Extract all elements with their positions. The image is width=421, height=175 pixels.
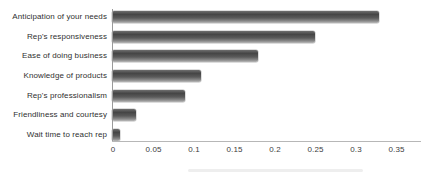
bar-row: Friendliness and courtesy [0,109,421,121]
category-label: Anticipation of your needs [0,11,112,23]
bar-row: Rep's responsiveness [0,31,421,43]
x-tick-label: 0.2 [269,145,280,154]
bar-row: Anticipation of your needs [0,11,421,23]
x-tick-label: 0 [111,145,116,154]
x-tick-label: 0.05 [146,145,162,154]
x-tick-label: 0.1 [188,145,199,154]
bar [112,90,185,102]
bar-row: Ease of doing business [0,50,421,62]
bar [112,31,315,43]
category-label: Ease of doing business [0,50,112,62]
x-tick-label: 0.15 [227,145,243,154]
bar [112,129,120,141]
category-label: Knowledge of products [0,70,112,82]
category-label: Rep's responsiveness [0,31,112,43]
x-tick-label: 0.35 [389,145,405,154]
bar-row: Rep's professionalism [0,90,421,102]
x-tick-label: 0.25 [308,145,324,154]
category-label: Wait time to reach rep [0,129,112,141]
horizontal-bar-chart: Anticipation of your needsRep's responsi… [0,0,421,175]
bar [112,109,136,121]
category-label: Rep's professionalism [0,90,112,102]
x-tick-label: 0.3 [350,145,361,154]
bar-row: Wait time to reach rep [0,129,421,141]
cropped-content-artifact [188,169,363,172]
x-axis-line [112,141,421,142]
y-axis-line [112,9,113,141]
bar [112,70,201,82]
bar [112,50,258,62]
chart-rows: Anticipation of your needsRep's responsi… [0,11,421,141]
bar [112,11,379,23]
bar-row: Knowledge of products [0,70,421,82]
category-label: Friendliness and courtesy [0,109,112,121]
